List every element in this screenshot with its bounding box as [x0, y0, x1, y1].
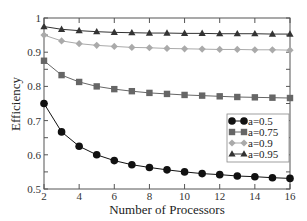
y-tick-label: 1 — [36, 12, 42, 24]
data-point — [75, 142, 83, 150]
data-point — [269, 94, 275, 100]
data-point — [76, 79, 82, 85]
data-point — [251, 173, 259, 181]
data-point — [58, 128, 66, 136]
x-tick-label: 8 — [147, 190, 153, 202]
data-point — [216, 30, 223, 36]
data-point — [269, 174, 277, 182]
y-tick-label: 0.9 — [27, 46, 41, 58]
data-point — [93, 151, 101, 159]
data-point — [286, 30, 293, 36]
legend: a=0.5a=0.75a=0.9a=0.95 — [227, 114, 289, 162]
legend-marker — [228, 117, 236, 125]
data-point — [146, 29, 153, 35]
data-point — [58, 72, 64, 78]
data-point — [287, 95, 293, 101]
data-point — [40, 23, 47, 29]
data-point — [234, 46, 241, 53]
data-point — [40, 32, 47, 39]
x-tick-label: 14 — [249, 190, 261, 202]
legend-marker — [229, 129, 235, 135]
data-point — [233, 172, 241, 180]
data-point — [146, 164, 154, 172]
data-point — [129, 88, 135, 94]
legend-marker — [240, 117, 248, 125]
data-point — [234, 94, 240, 100]
data-point — [128, 29, 135, 35]
data-point — [199, 46, 206, 53]
data-point — [163, 166, 171, 174]
data-point — [216, 171, 224, 179]
data-point — [111, 86, 117, 92]
x-tick-label: 16 — [285, 190, 297, 202]
efficiency-chart: 2468101214160.50.60.70.80.91 a=0.5a=0.75… — [0, 0, 307, 221]
data-point — [251, 46, 258, 53]
y-tick-label: 0.5 — [27, 183, 41, 195]
data-point — [251, 30, 258, 36]
data-point — [94, 83, 100, 89]
data-point — [163, 45, 170, 52]
data-point — [217, 93, 223, 99]
data-point — [128, 161, 136, 169]
data-point — [181, 92, 187, 98]
data-point — [198, 170, 206, 178]
data-point — [234, 30, 241, 36]
data-point — [269, 46, 276, 53]
data-point — [111, 29, 118, 35]
data-point — [76, 40, 83, 47]
data-point — [110, 157, 118, 165]
data-point — [199, 30, 206, 36]
y-tick-label: 0.8 — [27, 80, 41, 92]
x-tick-label: 6 — [112, 190, 118, 202]
x-tick-label: 12 — [214, 190, 225, 202]
data-point — [111, 43, 118, 50]
x-tick-label: 10 — [179, 190, 191, 202]
series-a-0-95 — [40, 23, 293, 37]
data-point — [146, 90, 152, 96]
data-point — [252, 94, 258, 100]
data-point — [93, 42, 100, 49]
y-tick-label: 0.7 — [27, 115, 41, 127]
data-point — [146, 44, 153, 51]
data-point — [181, 30, 188, 36]
x-tick-label: 2 — [41, 190, 47, 202]
legend-marker — [241, 129, 247, 135]
data-point — [163, 29, 170, 35]
data-point — [216, 46, 223, 53]
data-point — [128, 44, 135, 51]
data-point — [181, 168, 189, 176]
data-point — [269, 30, 276, 36]
x-tick-label: 4 — [76, 190, 82, 202]
data-point — [40, 100, 48, 108]
data-point — [286, 175, 294, 183]
data-point — [199, 92, 205, 98]
series-a-0-75 — [41, 58, 293, 102]
data-point — [164, 91, 170, 97]
data-point — [181, 45, 188, 52]
data-point — [58, 37, 65, 44]
y-axis-title: Efficiency — [8, 77, 23, 131]
data-point — [41, 58, 47, 64]
legend-label: a=0.95 — [248, 148, 279, 160]
x-axis-title: Number of Processors — [109, 202, 225, 217]
y-tick-label: 0.6 — [27, 149, 41, 161]
